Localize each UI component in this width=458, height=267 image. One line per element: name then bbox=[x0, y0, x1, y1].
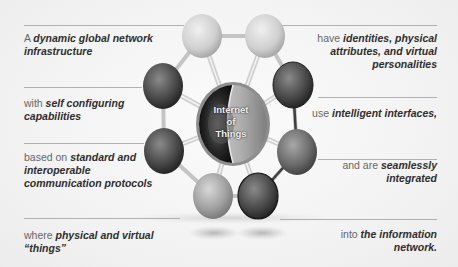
right-item-1-emphasis-2: attributes, and virtual bbox=[330, 45, 437, 57]
center-label: Internet of Things bbox=[203, 104, 259, 140]
left-item-2-emphasis-1: self configuring bbox=[46, 97, 125, 109]
left-item-3: based on standard and interoperable comm… bbox=[24, 151, 152, 190]
node-upper-left bbox=[143, 63, 183, 109]
left-item-3-emphasis-2: interoperable bbox=[24, 164, 91, 176]
left-item-1-emphasis-1: dynamic global network bbox=[33, 32, 153, 44]
right-item-4-emphasis-1: the information bbox=[361, 228, 437, 240]
right-item-2-emphasis-1: intelligent interfaces, bbox=[332, 107, 437, 119]
node-bottom-left bbox=[193, 173, 233, 219]
center-label-line-1: Internet bbox=[203, 104, 259, 116]
right-item-4-prefix: into bbox=[341, 228, 361, 240]
left-item-4-prefix: where bbox=[24, 229, 56, 241]
left-item-3-prefix: based on bbox=[24, 151, 70, 163]
left-item-4: where physical and virtual “things” bbox=[24, 229, 154, 255]
right-item-1-emphasis-3: personalities bbox=[372, 58, 437, 70]
left-item-2-prefix: with bbox=[24, 97, 46, 109]
diagram-canvas: Internet of Things A dynamic global netw… bbox=[0, 0, 458, 267]
center-label-line-3: Things bbox=[203, 128, 259, 140]
right-item-3-emphasis-2: integrated bbox=[386, 172, 437, 184]
right-item-3: and are seamlessly integrated bbox=[342, 159, 437, 185]
left-item-2-emphasis-2: capabilities bbox=[24, 110, 81, 122]
left-item-3-emphasis-1: standard and bbox=[70, 151, 136, 163]
node-top-left bbox=[182, 14, 222, 58]
left-item-4-emphasis-1: physical and virtual bbox=[56, 229, 154, 241]
node-top-right bbox=[245, 14, 285, 58]
right-item-2: use intelligent interfaces, bbox=[312, 107, 437, 120]
right-item-4: into the information network. bbox=[341, 228, 437, 254]
right-item-3-prefix: and are bbox=[342, 159, 381, 171]
right-item-4-emphasis-2: network. bbox=[394, 241, 437, 253]
node-lower-right bbox=[277, 129, 317, 175]
right-item-2-prefix: use bbox=[312, 107, 332, 119]
left-item-1-emphasis-2: infrastructure bbox=[24, 45, 92, 57]
left-item-1: A dynamic global network infrastructure bbox=[24, 32, 153, 58]
node-bottom-right bbox=[238, 173, 278, 219]
left-item-1-prefix: A bbox=[24, 32, 33, 44]
right-item-3-emphasis-1: seamlessly bbox=[381, 159, 437, 171]
left-item-3-emphasis-3: communication protocols bbox=[24, 177, 152, 189]
node-upper-right bbox=[273, 62, 313, 108]
right-item-1-prefix: have bbox=[317, 32, 343, 44]
right-item-1-emphasis-1: identities, physical bbox=[343, 32, 437, 44]
right-item-1: have identities, physical attributes, an… bbox=[317, 32, 437, 71]
left-item-4-emphasis-2: “things” bbox=[24, 242, 66, 254]
left-item-2: with self configuring capabilities bbox=[24, 97, 124, 123]
center-label-line-2: of bbox=[203, 116, 259, 128]
